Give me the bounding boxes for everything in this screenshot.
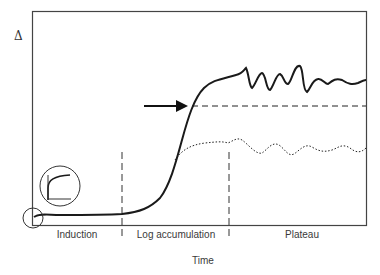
main-accumulation-curve (34, 66, 366, 217)
secondary-curve (175, 139, 366, 160)
x-axis-label: Time (192, 255, 214, 266)
y-axis-label: Δ (14, 29, 23, 43)
inset-magnified-view (40, 166, 80, 206)
phase-label-plateau: Plateau (285, 229, 319, 240)
plot-frame (33, 12, 367, 226)
phase-label-log-accumulation: Log accumulation (137, 229, 215, 240)
phase-label-induction: Induction (57, 229, 98, 240)
arrow-icon (144, 100, 188, 112)
